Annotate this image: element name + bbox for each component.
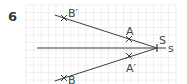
geometry-figure: B′AA′BSs	[0, 0, 187, 84]
label-a: A	[126, 25, 134, 38]
label-b-prime: B′	[68, 7, 79, 20]
label-b: B	[68, 74, 76, 84]
label-a-prime: A′	[126, 62, 137, 75]
grid-paper	[26, 5, 177, 84]
label-s: S	[159, 34, 166, 47]
label-s: s	[168, 42, 174, 55]
